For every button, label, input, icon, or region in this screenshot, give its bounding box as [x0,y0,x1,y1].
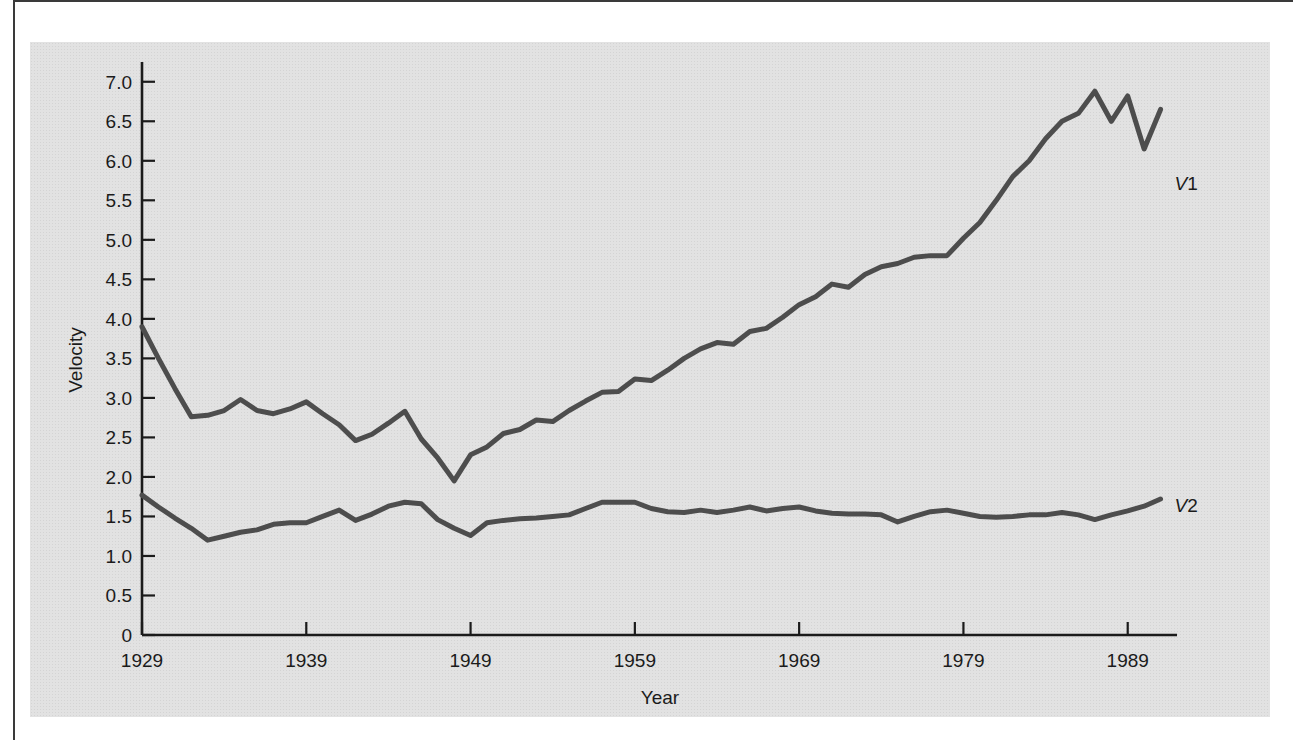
y-tick-label: 1.5 [106,506,132,527]
x-axis: 1929193919491959196919791989 [121,622,1177,671]
y-tick-label: 7.0 [106,72,132,93]
y-axis-ticks [142,82,155,635]
y-tick-label: 5.0 [106,230,132,251]
y-tick-label: 0.5 [106,585,132,606]
series-end-labels: V1V2 [1175,173,1198,516]
y-tick-label: 1.0 [106,546,132,567]
y-tick-label: 4.5 [106,269,132,290]
y-tick-label: 4.0 [106,309,132,330]
line-chart: 00.51.01.52.02.53.03.54.04.55.05.56.06.5… [0,0,1293,740]
y-tick-label: 3.5 [106,348,132,369]
y-axis-title: Velocity [65,327,86,393]
y-tick-label: 3.0 [106,388,132,409]
series-label-index: 2 [1187,495,1198,516]
x-axis-ticks [142,622,1128,635]
x-axis-tick-labels: 1929193919491959196919791989 [121,650,1149,671]
y-tick-label: 6.0 [106,151,132,172]
y-tick-label: 6.5 [106,111,132,132]
y-tick-label: 5.5 [106,190,132,211]
series-line-v2 [142,495,1161,540]
x-tick-label: 1979 [942,650,984,671]
series-line-v1 [142,91,1161,481]
series-lines [142,91,1161,540]
x-tick-label: 1949 [449,650,491,671]
series-label-index: 1 [1187,173,1198,194]
x-tick-label: 1929 [121,650,163,671]
x-tick-label: 1969 [778,650,820,671]
y-axis-tick-labels: 00.51.01.52.02.53.03.54.04.55.05.56.06.5… [106,72,132,646]
series-label-v1: V1 [1175,173,1198,194]
y-axis: 00.51.01.52.02.53.03.54.04.55.05.56.06.5… [106,62,155,646]
y-tick-label: 2.0 [106,467,132,488]
x-axis-title: Year [641,687,680,708]
series-label-v2: V2 [1175,495,1198,516]
x-tick-label: 1959 [614,650,656,671]
y-tick-label: 0 [121,625,132,646]
x-tick-label: 1939 [285,650,327,671]
x-tick-label: 1989 [1107,650,1149,671]
figure-container: 00.51.01.52.02.53.03.54.04.55.05.56.06.5… [0,0,1293,740]
y-tick-label: 2.5 [106,427,132,448]
